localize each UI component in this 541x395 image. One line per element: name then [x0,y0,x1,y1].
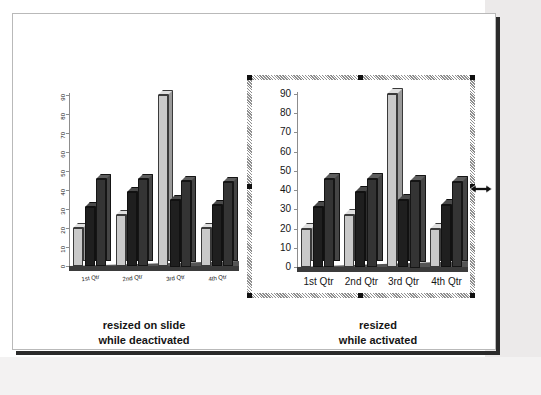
resize-handle-bottom-left[interactable] [247,293,252,298]
bar-series-3-4th-qtr [223,182,233,266]
resize-handle-top-right[interactable] [470,75,475,80]
bar-front-face [158,95,168,266]
y-axis-tick [66,247,70,248]
slide-shadow-bottom [16,351,500,355]
bar-front-face [73,228,83,266]
bar-series-2-2nd-qtr [127,192,137,266]
bar-front-face [127,192,137,266]
y-axis-tick [66,114,70,115]
bar-side-face [191,176,196,262]
y-axis-tick [66,171,70,172]
horizontal-resize-cursor-icon [470,181,492,193]
caption-left-line1: resized on slide [59,318,229,333]
y-axis-line [69,93,70,266]
bar-series-2-1st-qtr [85,207,95,266]
caption-left-line2: while deactivated [59,333,229,348]
bar-series-3-1st-qtr [96,179,106,266]
resize-handle-bottom-right[interactable] [470,293,475,298]
bar-series-2-3rd-qtr [170,200,180,267]
bar-series-1-4th-qtr [201,228,211,266]
bar-front-face [96,179,106,266]
bar-side-face [106,174,111,261]
y-axis-tick [66,190,70,191]
slide-shadow-right [496,17,500,355]
bar-series-3-3rd-qtr [181,181,191,267]
bar-series-1-1st-qtr [73,228,83,266]
bar-series-2-4th-qtr [212,205,222,266]
bar-front-face [212,205,222,266]
caption-right-line2: while activated [293,333,463,348]
backdrop-bottom-band [0,357,541,395]
bar-side-face [148,174,153,261]
bar-front-face [223,182,233,266]
resize-handle-bottom-center[interactable] [358,293,363,298]
chart-resized-deactivated[interactable]: 01020304050607080901st Qtr2nd Qtr3rd Qtr… [31,87,247,292]
bar-front-face [116,215,126,266]
bar-series-3-2nd-qtr [138,179,148,266]
resize-handle-top-left[interactable] [247,75,252,80]
bar-front-face [170,200,180,267]
y-axis-tick [66,133,70,134]
bar-front-face [181,181,191,267]
resize-handle-top-center[interactable] [358,75,363,80]
bar-series-1-2nd-qtr [116,215,126,266]
bar-series-1-3rd-qtr [158,95,168,266]
y-axis-label: 90 [60,94,66,124]
resize-handle-middle-left[interactable] [247,184,252,189]
y-axis-tick [66,209,70,210]
y-axis-tick [66,152,70,153]
caption-left: resized on slide while deactivated [59,318,229,347]
bar-front-face [201,228,211,266]
bar-side-face [233,177,238,261]
selection-frame[interactable] [247,75,475,298]
caption-right: resized while activated [293,318,463,347]
y-axis-tick [66,95,70,96]
y-axis-tick [66,228,70,229]
bar-front-face [85,207,95,266]
bar-front-face [138,179,148,266]
chart-floor [69,266,239,271]
caption-right-line1: resized [293,318,463,333]
